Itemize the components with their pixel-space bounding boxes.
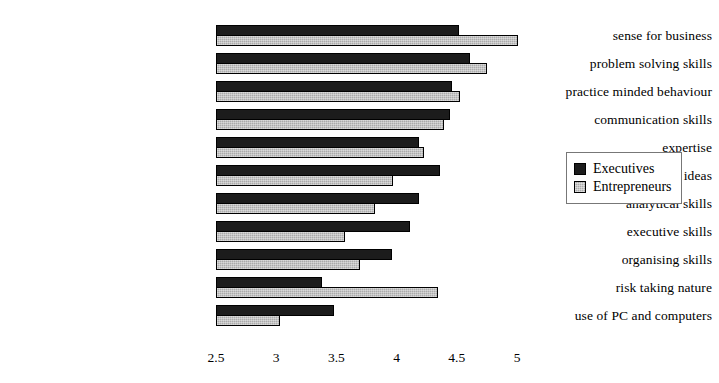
- legend-item-executives: Executives: [574, 161, 672, 177]
- bars-container: [216, 302, 716, 330]
- bar-group: practice minded behaviour: [0, 78, 719, 106]
- bar-entrepreneurs: [216, 259, 360, 270]
- bars-container: [216, 50, 716, 78]
- legend-item-entrepreneurs: Entrepreneurs: [574, 179, 672, 195]
- x-tick-label: 3.5: [328, 350, 345, 366]
- bar-entrepreneurs: [216, 147, 424, 158]
- bars-container: [216, 218, 716, 246]
- bars-container: [216, 78, 716, 106]
- bar-entrepreneurs: [216, 91, 460, 102]
- bar-entrepreneurs: [216, 231, 345, 242]
- hatched-square-icon: [574, 181, 586, 193]
- bar-group: use of PC and computers: [0, 302, 719, 330]
- bar-group: communication skills: [0, 106, 719, 134]
- bars-container: [216, 246, 716, 274]
- legend-label-entrepreneurs: Entrepreneurs: [593, 179, 672, 195]
- bar-group: problem solving skills: [0, 50, 719, 78]
- x-axis-ticks: 2.533.544.55: [0, 350, 719, 372]
- x-tick-label: 4.5: [448, 350, 465, 366]
- bar-group: risk taking nature: [0, 274, 719, 302]
- bar-entrepreneurs: [216, 119, 444, 130]
- chart-legend: Executives Entrepreneurs: [566, 152, 682, 204]
- bar-group: sense for business: [0, 22, 719, 50]
- bar-entrepreneurs: [216, 203, 375, 214]
- bar-entrepreneurs: [216, 175, 393, 186]
- bars-container: [216, 274, 716, 302]
- legend-label-executives: Executives: [593, 161, 654, 177]
- dark-square-icon: [574, 163, 586, 175]
- x-tick-label: 2.5: [208, 350, 225, 366]
- x-tick-label: 3: [273, 350, 280, 366]
- bar-entrepreneurs: [216, 287, 438, 298]
- bar-group: organising skills: [0, 246, 719, 274]
- bar-entrepreneurs: [216, 35, 518, 46]
- bars-container: [216, 106, 716, 134]
- bar-entrepreneurs: [216, 63, 487, 74]
- bars-container: [216, 22, 716, 50]
- bar-group: executive skills: [0, 218, 719, 246]
- x-tick-label: 5: [514, 350, 521, 366]
- x-tick-label: 4: [393, 350, 400, 366]
- bar-chart: sense for businessproblem solving skills…: [0, 0, 719, 383]
- bar-entrepreneurs: [216, 315, 280, 326]
